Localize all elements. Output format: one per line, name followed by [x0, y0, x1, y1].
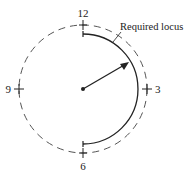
- clock-hand: [83, 64, 126, 89]
- clock-locus-diagram: 12 3 6 9 Required locus: [0, 0, 192, 175]
- label-required-locus: Required locus: [120, 21, 183, 32]
- label-6: 6: [80, 160, 86, 172]
- label-12: 12: [78, 7, 89, 19]
- arrowhead-icon: [120, 62, 129, 70]
- label-9: 9: [6, 83, 12, 95]
- required-locus-arc: [83, 34, 138, 144]
- label-3: 3: [155, 83, 161, 95]
- center-dot: [81, 87, 85, 91]
